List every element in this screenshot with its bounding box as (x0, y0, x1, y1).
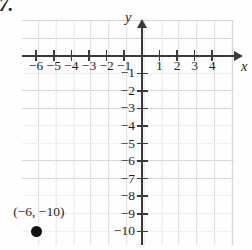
plotted-point-marker (31, 226, 42, 237)
y-tick-label: −9 (95, 207, 135, 221)
y-tick-label: −7 (95, 172, 135, 186)
y-tick-label: −6 (95, 154, 135, 168)
problem-number: 7. (0, 0, 13, 16)
y-tick (137, 73, 148, 75)
y-tick-label: −8 (95, 189, 135, 203)
y-tick-label: −1 (95, 66, 135, 80)
y-axis-arrow-icon (137, 19, 147, 28)
y-axis-line (141, 22, 143, 245)
y-tick (137, 160, 148, 162)
y-tick-label: −5 (95, 137, 135, 151)
y-tick-label: −4 (95, 119, 135, 133)
y-tick (137, 195, 148, 197)
y-tick (137, 108, 148, 110)
x-axis-label: x (241, 58, 247, 75)
plotted-point-label: (−6, −10) (13, 204, 64, 220)
y-tick (137, 143, 148, 145)
y-tick-label: −10 (95, 224, 135, 238)
y-tick (137, 231, 148, 233)
y-tick (137, 178, 148, 180)
y-tick (137, 213, 148, 215)
x-tick-label: 4 (201, 59, 223, 73)
coordinate-plane-figure: 7. x y −6−5−4−3−2−11234 −1−2−3−4−5−6−7−8… (0, 0, 252, 250)
y-tick-label: −3 (95, 101, 135, 115)
y-tick (137, 90, 148, 92)
y-tick (137, 125, 148, 127)
y-axis-label: y (125, 9, 131, 26)
y-tick-label: −2 (95, 84, 135, 98)
